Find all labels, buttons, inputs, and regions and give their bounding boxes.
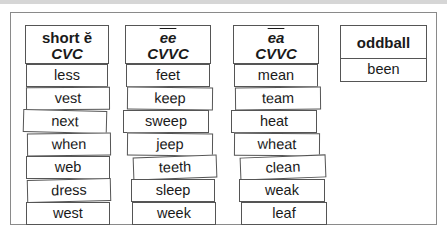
column-header: short ĕ CVC [25, 25, 109, 64]
word-text: clean [265, 158, 300, 175]
word-card[interactable]: weak [239, 179, 325, 202]
header-line2: CVC [26, 46, 108, 61]
word-card[interactable]: vest [26, 87, 110, 110]
column-header: ee CVVC [125, 25, 211, 64]
word-card[interactable]: sleep [131, 179, 215, 202]
word-card[interactable]: week [132, 202, 216, 225]
header-line1: short ĕ [26, 26, 108, 45]
word-card[interactable]: less [26, 64, 108, 87]
word-text: web [55, 159, 82, 175]
word-text: week [157, 205, 191, 221]
word-card[interactable]: next [23, 109, 108, 134]
column-header: ea CVVC [233, 25, 319, 64]
word-text: feet [156, 67, 180, 83]
word-text: next [51, 113, 79, 130]
header-line2: CVVC [126, 46, 210, 61]
word-card[interactable]: feet [126, 64, 210, 87]
word-card[interactable]: when [27, 133, 111, 157]
word-text: dress [51, 182, 87, 199]
word-text: teeth [159, 158, 192, 175]
word-card[interactable]: been [340, 59, 427, 82]
word-card[interactable]: clean [240, 154, 327, 180]
word-card[interactable]: teeth [133, 155, 218, 181]
word-card[interactable]: jeep [127, 133, 213, 157]
word-text: weak [265, 182, 299, 198]
word-card[interactable]: west [26, 202, 110, 225]
word-card[interactable]: web [26, 156, 110, 179]
word-text: wheat [258, 136, 297, 152]
word-text: heat [260, 113, 288, 129]
word-text: sweep [145, 113, 187, 129]
column-short-e: short ĕ CVC less vest next when web dres… [25, 25, 109, 225]
word-card[interactable]: sweep [123, 110, 209, 133]
header-line2: CVVC [234, 46, 318, 61]
header-line1: ee [126, 26, 210, 45]
column-header: oddball [340, 25, 427, 59]
word-card[interactable]: team [235, 87, 321, 111]
word-card[interactable]: keep [127, 87, 213, 111]
word-text: mean [258, 67, 294, 83]
word-text: been [367, 61, 399, 77]
word-card[interactable]: mean [234, 64, 318, 87]
word-text: vest [55, 90, 82, 106]
word-card[interactable]: dress [27, 178, 112, 203]
word-text: keep [154, 90, 186, 106]
header-line1: ea [234, 26, 318, 45]
word-sort-frame: short ĕ CVC less vest next when web dres… [10, 12, 437, 225]
top-band [0, 0, 447, 4]
word-text: jeep [156, 136, 184, 152]
column-oddball: oddball been [340, 25, 427, 82]
column-ee: ee CVVC feet keep sweep jeep teeth sleep… [125, 25, 211, 225]
word-card[interactable]: wheat [234, 133, 320, 157]
word-text: west [53, 205, 83, 221]
word-card[interactable]: heat [231, 110, 317, 133]
column-ea: ea CVVC mean team heat wheat clean weak … [233, 25, 319, 225]
word-card[interactable]: leaf [241, 202, 327, 225]
word-text: team [262, 90, 294, 106]
word-text: less [54, 67, 80, 83]
word-text: sleep [156, 182, 191, 198]
word-text: when [52, 136, 87, 152]
word-text: leaf [272, 205, 295, 221]
